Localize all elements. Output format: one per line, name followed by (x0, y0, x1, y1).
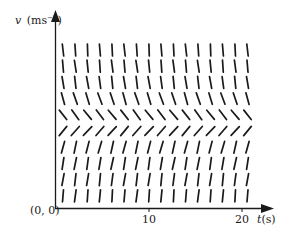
slope-segment (206, 127, 214, 136)
slope-segment (75, 174, 76, 186)
slope-segment (136, 174, 137, 186)
x-tick-label-20: 20 (235, 213, 249, 226)
slope-segment (111, 141, 114, 153)
slope-segment (195, 110, 202, 120)
slope-segment (234, 174, 236, 186)
slope-segment (219, 127, 227, 136)
slope-segment (222, 158, 224, 170)
slope-segment (123, 141, 126, 153)
slope-segment (99, 77, 101, 89)
slope-segment (161, 77, 163, 89)
slope-segment (210, 190, 211, 202)
slope-segment (84, 110, 92, 119)
slope-segment (160, 158, 162, 170)
slope-segment (121, 126, 129, 135)
slope-segment (87, 60, 88, 72)
slope-segment (246, 93, 249, 105)
slope-segment (149, 190, 150, 202)
slope-segment (158, 127, 166, 136)
slope-segment (148, 174, 150, 186)
slope-segment (136, 76, 137, 88)
slope-segment (96, 110, 103, 120)
slope-segment (231, 127, 239, 136)
slope-segment (75, 76, 76, 88)
slope-segment (108, 127, 116, 136)
slope-segment (186, 60, 187, 72)
slope-segment (234, 60, 236, 72)
slope-segment (99, 44, 100, 56)
slope-segment (87, 158, 89, 170)
slope-segment (135, 93, 139, 104)
slope-segment (235, 76, 236, 88)
slope-segment (74, 60, 76, 72)
slope-segment (159, 93, 163, 104)
slope-segment (198, 76, 199, 88)
x-axis-label: t(s) (257, 213, 276, 226)
slope-segment (184, 141, 187, 153)
slope-field-diagram: v (ms−1) (0, 0) 10 20 t(s) (0, 0, 289, 236)
slope-segment (198, 44, 199, 56)
slope-segment (148, 77, 150, 89)
slope-segment (244, 126, 252, 135)
slope-segment (148, 141, 151, 153)
slope-segment (87, 77, 89, 89)
slope-segment (223, 60, 224, 72)
slope-segment (247, 44, 248, 56)
slope-segment (124, 77, 126, 89)
slope-segment (172, 158, 175, 170)
slope-segment (185, 158, 187, 170)
slope-segment (145, 110, 153, 119)
slope-segment (99, 190, 100, 202)
slope-segment (185, 174, 187, 186)
slope-segment (83, 127, 91, 136)
slope-segment (209, 93, 212, 104)
slope-segment (59, 126, 67, 135)
slope-segment (185, 44, 186, 56)
slope-segment (170, 127, 178, 136)
slope-segment (61, 141, 64, 153)
slope-segment (247, 60, 248, 72)
slope-segment (161, 44, 162, 56)
slope-segment (136, 44, 137, 56)
slope-segment (161, 60, 162, 72)
slope-segment (111, 158, 114, 170)
slope-segment (198, 190, 200, 202)
slope-segment (112, 44, 113, 56)
slope-segment (63, 190, 64, 202)
slope-segment (173, 44, 174, 56)
slope-segment (74, 141, 76, 153)
slope-segment (99, 174, 100, 186)
slope-segment (246, 141, 249, 153)
slope-segment (72, 110, 79, 120)
slope-segment (222, 44, 223, 56)
slope-segment (185, 77, 187, 89)
x-axis-arrow-icon (261, 204, 274, 213)
slope-segment (112, 76, 113, 88)
slope-segment (170, 110, 178, 119)
y-axis-label: v (ms−1) (15, 14, 62, 27)
slope-segment (234, 158, 237, 170)
slope-segment (182, 126, 190, 135)
slope-segment (148, 158, 150, 170)
slope-segment (172, 141, 175, 153)
slope-segment (133, 127, 141, 136)
origin-label: (0, 0) (30, 204, 60, 217)
slope-segment (124, 158, 126, 170)
slope-segment (210, 174, 212, 186)
slope-segment (247, 190, 248, 202)
slope-segment (99, 158, 101, 170)
slope-segment (184, 93, 187, 105)
slope-segment (98, 93, 102, 104)
slope-segment (210, 60, 211, 72)
x-tick-label-10: 10 (142, 213, 156, 226)
slope-segment (173, 174, 175, 186)
slope-segment (247, 158, 249, 170)
slope-segment (221, 93, 225, 104)
slope-segment (196, 93, 200, 104)
slope-segment (244, 110, 251, 119)
slope-segment (71, 127, 79, 136)
slope-segment (124, 60, 125, 72)
slope-segment (86, 141, 89, 153)
slope-segment (110, 93, 114, 104)
slope-segment (197, 141, 199, 153)
